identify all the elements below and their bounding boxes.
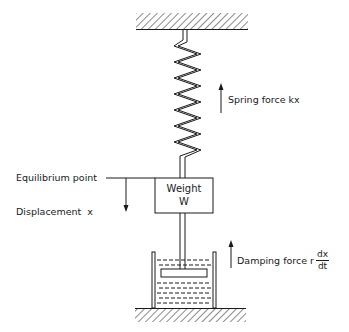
ground-support (135, 309, 246, 323)
spring-mass-damper-diagram (0, 0, 349, 332)
fraction-denominator: dt (318, 261, 327, 271)
spring (174, 30, 201, 178)
weight-label-line1: Weight (167, 183, 202, 196)
spring-force-arrow (219, 83, 224, 113)
weight-label-line2: W (179, 196, 189, 209)
damping-force-arrow (229, 240, 234, 268)
ceiling-support (136, 13, 248, 30)
dx-dt-fraction: dx dt (316, 250, 329, 271)
weight-label: Weight W (155, 178, 213, 213)
damping-force-text: Damping force r (237, 256, 314, 266)
equilibrium-point-label: Equilibrium point (16, 173, 97, 183)
piston-head (161, 269, 207, 277)
piston-rod (180, 213, 185, 269)
displacement-arrow (124, 178, 129, 212)
spring-force-label: Spring force kx (228, 95, 300, 105)
displacement-label: Displacement x (16, 207, 93, 217)
damper-fluid (157, 260, 211, 303)
fraction-numerator: dx (316, 250, 329, 261)
damping-force-label: Damping force r dx dt (237, 250, 329, 271)
